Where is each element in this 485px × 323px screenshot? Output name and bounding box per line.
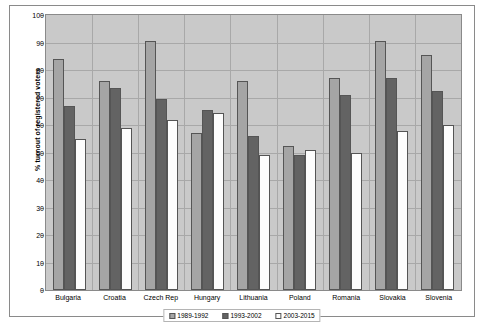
legend-item[interactable]: 2003-2015 [276,312,315,319]
y-axis-tick-mark [41,153,44,154]
y-axis-tick-label: 100 [14,12,44,19]
y-axis-tick-label: 30 [14,204,44,211]
bar[interactable] [202,110,213,290]
bar-group-bulgaria [46,15,92,290]
bar-group-romania [323,15,369,290]
bar[interactable] [99,81,110,290]
legend-item[interactable]: 1993-2002 [222,312,261,319]
bar-group-hungary [184,15,230,290]
y-axis-tick-mark [41,98,44,99]
y-axis: 1009080706050403020100 [10,14,44,291]
x-axis-label: Bulgaria [45,294,91,301]
bar[interactable] [397,131,408,291]
y-axis-tick-label: 10 [14,259,44,266]
y-axis-tick-label: 90 [14,39,44,46]
y-axis-tick-mark [41,70,44,71]
chart-frame: % turnout of registered voters 100908070… [9,5,475,317]
x-axis-label: Poland [277,294,323,301]
y-axis-tick-label: 70 [14,94,44,101]
plot-area [45,14,462,291]
bar-group-slovakia [369,15,415,290]
y-axis-tick-mark [41,263,44,264]
y-axis-tick-label: 20 [14,232,44,239]
bar[interactable] [75,139,86,290]
bar[interactable] [259,155,270,290]
y-axis-tick-mark [41,208,44,209]
legend-swatch-icon [222,313,228,319]
y-axis-tick-label: 60 [14,122,44,129]
bar[interactable] [340,95,351,290]
x-axis-label: Croatia [91,294,137,301]
bar[interactable] [375,41,386,290]
bar[interactable] [283,146,294,290]
x-axis-label: Hungary [184,294,230,301]
bar[interactable] [248,136,259,290]
y-axis-tick-label: 80 [14,67,44,74]
y-axis-tick-mark [41,43,44,44]
bar[interactable] [64,106,75,290]
bar-group-poland [277,15,323,290]
x-axis-label: Slovenia [416,294,462,301]
bar[interactable] [421,55,432,290]
bar[interactable] [213,113,224,290]
bar[interactable] [191,133,202,290]
y-axis-tick-mark [41,15,44,16]
bar[interactable] [121,128,132,290]
bar[interactable] [432,91,443,290]
bar[interactable] [156,99,167,290]
y-axis-tick-label: 50 [14,149,44,156]
y-axis-tick-label: 40 [14,177,44,184]
y-axis-tick-mark [41,235,44,236]
legend-swatch-icon [169,313,175,319]
legend-label: 1993-2002 [230,312,261,319]
bar[interactable] [294,155,305,290]
bar-group-slovenia [415,15,461,290]
x-axis-label: Czech Rep [138,294,184,301]
bar-group-croatia [92,15,138,290]
bar[interactable] [305,150,316,290]
x-axis-label: Romania [323,294,369,301]
bar[interactable] [237,81,248,290]
legend-item[interactable]: 1989-1992 [169,312,208,319]
bar[interactable] [167,120,178,291]
bar[interactable] [53,59,64,290]
x-axis-label: Slovakia [369,294,415,301]
legend-swatch-icon [276,313,282,319]
x-axis-label: Lithuania [230,294,276,301]
plot-inner [46,15,461,290]
y-axis-tick-label: 0 [14,287,44,294]
chart-legend: 1989-19921993-20022003-2015 [163,309,320,322]
y-axis-tick-mark [41,125,44,126]
legend-label: 2003-2015 [284,312,315,319]
bar[interactable] [145,41,156,290]
bar-groups [46,15,461,290]
bar[interactable] [351,153,362,291]
y-axis-tick-mark [41,290,44,291]
bar[interactable] [110,88,121,290]
bar[interactable] [443,125,454,290]
x-axis-category-labels: BulgariaCroatiaCzech RepHungaryLithuania… [45,294,462,301]
legend-label: 1989-1992 [177,312,208,319]
bar-group-czech-rep [138,15,184,290]
bar-group-lithuania [230,15,276,290]
bar[interactable] [386,78,397,290]
bar[interactable] [329,78,340,290]
y-axis-tick-mark [41,180,44,181]
